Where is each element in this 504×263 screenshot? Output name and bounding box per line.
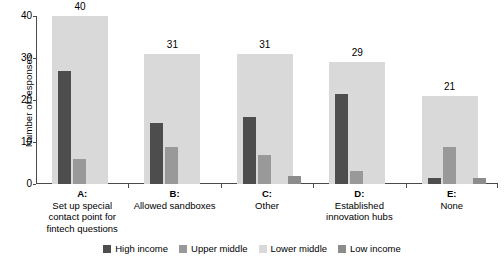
bar xyxy=(258,155,271,184)
x-axis-category-label: A:Set up special contact point for finte… xyxy=(36,188,128,234)
legend-swatch-icon xyxy=(259,245,267,253)
bar xyxy=(473,178,486,184)
bar-value-label: 29 xyxy=(329,48,385,58)
x-axis-category-labels: A:Set up special contact point for finte… xyxy=(36,188,498,238)
bar-group: 31 xyxy=(237,16,293,184)
category-name: Established innovation hubs xyxy=(313,200,405,223)
bar xyxy=(428,178,441,184)
bar-group: 29 xyxy=(329,16,385,184)
category-name: None xyxy=(406,200,498,212)
bar xyxy=(73,159,86,184)
y-axis-tick-mark xyxy=(33,100,36,101)
legend-swatch-icon xyxy=(103,245,111,253)
bar-value-label: 40 xyxy=(52,2,108,12)
category-name: Set up special contact point for fintech… xyxy=(36,200,128,235)
bar xyxy=(58,71,71,184)
legend-label: Lower middle xyxy=(271,244,328,254)
legend-label: Upper middle xyxy=(191,244,248,254)
bar-group: 40 xyxy=(52,16,108,184)
y-axis-tick-mark xyxy=(33,58,36,59)
y-axis-tick-label: 0 xyxy=(8,179,32,189)
bar xyxy=(350,171,363,184)
bar xyxy=(243,117,256,184)
legend-item[interactable]: Upper middle xyxy=(179,244,248,254)
y-axis-tick-mark xyxy=(33,16,36,17)
bar xyxy=(165,147,178,184)
y-axis-tick-label: 20 xyxy=(8,95,32,105)
bar xyxy=(335,94,348,184)
bar-value-label: 31 xyxy=(144,40,200,50)
y-axis-tick-mark xyxy=(33,184,36,185)
bar-chart: Number of responses 010203040 4031312921… xyxy=(0,0,504,263)
bar-group: 21 xyxy=(422,16,478,184)
category-key: B: xyxy=(128,188,220,200)
category-key: C: xyxy=(221,188,313,200)
legend-swatch-icon xyxy=(179,245,187,253)
plot-area: 010203040 4031312921 xyxy=(36,16,498,184)
legend-swatch-icon xyxy=(338,245,346,253)
y-axis-tick-label: 10 xyxy=(8,137,32,147)
y-axis-tick-label: 40 xyxy=(8,11,32,21)
x-axis-category-label: C:Other xyxy=(221,188,313,211)
legend-item[interactable]: Low income xyxy=(338,244,401,254)
x-axis-category-label: B:Allowed sandboxes xyxy=(128,188,220,211)
bar xyxy=(150,123,163,184)
bar-value-label: 21 xyxy=(422,82,478,92)
chart-legend: High incomeUpper middleLower middleLow i… xyxy=(0,244,504,254)
y-axis-tick-mark xyxy=(33,142,36,143)
category-key: E: xyxy=(406,188,498,200)
bar xyxy=(443,147,456,184)
x-axis-category-label: D:Established innovation hubs xyxy=(313,188,405,223)
bar-value-label: 31 xyxy=(237,40,293,50)
legend-label: High income xyxy=(115,244,168,254)
category-key: D: xyxy=(313,188,405,200)
category-name: Other xyxy=(221,200,313,212)
category-key: A: xyxy=(36,188,128,200)
x-axis-category-label: E:None xyxy=(406,188,498,211)
bar xyxy=(288,176,301,184)
legend-item[interactable]: High income xyxy=(103,244,168,254)
legend-item[interactable]: Lower middle xyxy=(259,244,328,254)
y-axis-tick-label: 30 xyxy=(8,53,32,63)
bar-group: 31 xyxy=(144,16,200,184)
y-axis-line xyxy=(36,16,37,184)
legend-label: Low income xyxy=(350,244,401,254)
category-name: Allowed sandboxes xyxy=(128,200,220,212)
